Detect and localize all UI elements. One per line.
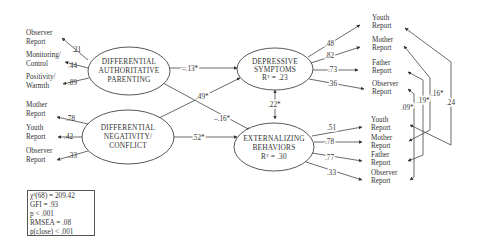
svg-text:Observer: Observer xyxy=(26,29,53,37)
error-cov-father xyxy=(408,72,423,161)
svg-text:Control: Control xyxy=(26,60,48,68)
covariance-coef: .22* xyxy=(268,101,281,109)
loading-value: .73 xyxy=(328,66,337,74)
loading-value: .42 xyxy=(64,133,73,141)
loading-value: .82 xyxy=(325,52,334,60)
svg-text:Observer: Observer xyxy=(372,80,399,88)
svg-text:Observer: Observer xyxy=(371,169,398,177)
svg-text:Mother: Mother xyxy=(372,36,394,44)
dnc-indicator-observer: Observer Report xyxy=(26,147,53,164)
svg-text:Report: Report xyxy=(372,88,392,96)
path-coef: –.13* xyxy=(181,65,199,73)
svg-text:Monitoring/: Monitoring/ xyxy=(26,51,61,59)
svg-text:Report: Report xyxy=(372,67,392,75)
svg-text:PARENTING: PARENTING xyxy=(108,75,151,84)
svg-text:Report: Report xyxy=(371,177,391,185)
fit-rmsea: RMSEA = .08 xyxy=(30,219,92,228)
svg-text:Father: Father xyxy=(371,151,390,159)
loading-value: .78 xyxy=(325,138,334,146)
svg-text:Report: Report xyxy=(26,156,46,164)
loading-value: .78 xyxy=(66,115,75,123)
loading-value: .48 xyxy=(325,40,334,48)
svg-text:Youth: Youth xyxy=(371,116,389,124)
dap-indicator-monitoring: Monitoring/ Control xyxy=(26,51,61,68)
error-cov-value: .16* xyxy=(431,90,444,98)
svg-text:Report: Report xyxy=(26,38,46,46)
svg-text:Report: Report xyxy=(371,142,391,150)
dep-loading-arrow-mother xyxy=(311,47,360,63)
svg-text:NEGATIVITY/: NEGATIVITY/ xyxy=(104,132,153,141)
svg-text:Report: Report xyxy=(372,22,392,30)
path-coef: .49* xyxy=(196,93,209,101)
loading-value: .89 xyxy=(68,79,77,87)
fit-p-value: p < .001 xyxy=(30,210,92,219)
svg-text:R² = .23: R² = .23 xyxy=(262,73,288,82)
fit-p-close: p(close) < .001 xyxy=(30,228,92,237)
svg-text:Report: Report xyxy=(371,159,391,167)
svg-text:EXTERNALIZING: EXTERNALIZING xyxy=(243,134,305,143)
fit-gfi: GFI = .93 xyxy=(30,201,92,210)
error-cov-observer xyxy=(408,89,414,180)
dap-indicator-positivity: Positivity/ Warmth xyxy=(26,73,56,90)
ext-loading-arrow-father xyxy=(312,153,362,161)
svg-text:Report: Report xyxy=(372,44,392,52)
error-cov-value: .24 xyxy=(446,99,455,107)
svg-text:Report: Report xyxy=(371,124,391,132)
svg-text:Warmth: Warmth xyxy=(26,82,49,90)
loading-value: .33 xyxy=(68,152,77,160)
svg-text:Youth: Youth xyxy=(372,14,390,22)
dep-loading-arrow-youth xyxy=(308,25,360,57)
latent-differential-negativity-conflict: DIFFERENTIAL NEGATIVITY/ CONFLICT xyxy=(82,110,174,164)
svg-text:Report: Report xyxy=(26,133,46,141)
loading-value: .44 xyxy=(68,62,77,70)
latent-depressive-symptoms: DEPRESSIVE SYMPTOMS R² = .23 xyxy=(237,48,313,90)
path-coef: –.16* xyxy=(213,115,231,123)
svg-text:AUTHORITATIVE: AUTHORITATIVE xyxy=(98,66,159,75)
fit-chi-square: χ²(68) = 209.42 xyxy=(30,192,92,201)
svg-text:Mother: Mother xyxy=(26,101,48,109)
ext-loading-arrow-youth xyxy=(312,127,362,136)
svg-text:Mother: Mother xyxy=(371,134,393,142)
error-cov-mother xyxy=(404,46,430,141)
fit-statistics-box: χ²(68) = 209.42 GFI = .93 p < .001 RMSEA… xyxy=(27,190,95,236)
loading-value: .36 xyxy=(328,80,337,88)
path-dap-to-ext xyxy=(163,83,250,130)
svg-text:Positivity/: Positivity/ xyxy=(26,73,56,81)
svg-text:Father: Father xyxy=(372,59,391,67)
dnc-indicator-youth: Youth Report xyxy=(26,124,46,141)
error-cov-youth xyxy=(405,28,451,145)
loading-value: .51 xyxy=(327,124,336,132)
loading-value: .77 xyxy=(325,154,334,162)
ext-indicator-observer: Observer Report xyxy=(371,169,398,185)
svg-text:Youth: Youth xyxy=(26,124,44,132)
svg-text:DIFFERENTIAL: DIFFERENTIAL xyxy=(102,57,157,66)
svg-text:Observer: Observer xyxy=(26,147,53,155)
dep-indicator-observer: Observer Report xyxy=(372,80,399,96)
dep-indicator-youth: Youth Report xyxy=(372,14,392,30)
latent-differential-authoritative-parenting: DIFFERENTIAL AUTHORITATIVE PARENTING xyxy=(88,47,170,95)
error-cov-value: .19* xyxy=(417,97,430,105)
loading-value: .33 xyxy=(327,169,336,177)
error-cov-value: .09* xyxy=(401,104,414,112)
path-coef: .52* xyxy=(192,134,205,142)
svg-text:R² = .30: R² = .30 xyxy=(261,152,287,161)
latent-externalizing-behaviors: EXTERNALIZING BEHAVIORS R² = .30 xyxy=(234,123,314,171)
dnc-indicator-mother: Mother Report xyxy=(26,101,48,118)
svg-text:CONFLICT: CONFLICT xyxy=(109,141,147,150)
svg-text:BEHAVIORS: BEHAVIORS xyxy=(252,143,295,152)
svg-text:DIFFERENTIAL: DIFFERENTIAL xyxy=(101,123,156,132)
loading-value: .21 xyxy=(72,46,81,54)
ext-indicator-youth: Youth Report xyxy=(371,116,391,132)
svg-text:Report: Report xyxy=(26,110,46,118)
dap-indicator-observer: Observer Report xyxy=(26,29,53,46)
ext-indicator-father: Father Report xyxy=(371,151,391,167)
ext-indicator-mother: Mother Report xyxy=(371,134,393,150)
dep-indicator-mother: Mother Report xyxy=(372,36,394,52)
dep-indicator-father: Father Report xyxy=(372,59,392,75)
